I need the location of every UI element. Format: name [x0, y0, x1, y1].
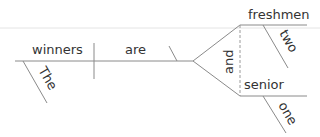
complement-slash	[169, 46, 177, 61]
word-conjunction: and	[221, 50, 236, 74]
word-subject: winners	[32, 42, 83, 57]
word-complement-2: senior	[244, 77, 285, 92]
diagram-canvas: winners are freshmen senior The two one …	[0, 0, 320, 137]
word-verb: are	[125, 42, 146, 57]
sentence-diagram: winners are freshmen senior The two one …	[0, 0, 320, 137]
word-modifier-two: two	[276, 27, 301, 55]
word-complement-1: freshmen	[248, 7, 310, 22]
word-modifier-one: one	[275, 99, 300, 127]
